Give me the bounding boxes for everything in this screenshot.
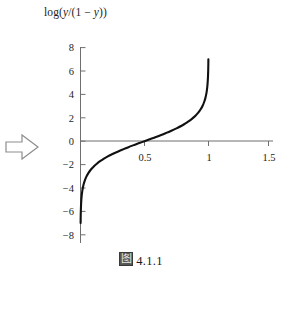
y-tick-label: −2 xyxy=(63,159,74,170)
y-tick-label: 8 xyxy=(69,42,74,53)
x-tick-label: 1 xyxy=(206,152,211,163)
y-tick-label: 6 xyxy=(69,66,74,77)
x-tick-labels: 0.5 1 1.5 xyxy=(138,152,275,163)
figure-glyph-icon: 图 xyxy=(119,252,133,266)
y-tick-labels: 8 6 4 2 0 −2 −4 −6 −8 xyxy=(63,42,75,240)
figure-number: 4.1.1 xyxy=(136,254,163,268)
y-tick-label: 4 xyxy=(69,89,75,100)
figure-container: log(y/(1 − y)) 8 xyxy=(0,0,282,311)
y-tick-label: −6 xyxy=(63,206,74,217)
x-tick-label: 0.5 xyxy=(138,152,151,163)
figure-caption: 图4.1.1 xyxy=(0,252,282,269)
x-tick-label: 1.5 xyxy=(262,152,275,163)
y-tick-label: 2 xyxy=(69,113,74,124)
y-tick-label: −8 xyxy=(63,230,74,241)
y-tick-label: −4 xyxy=(63,183,75,194)
x-tick-marks xyxy=(145,141,269,146)
y-tick-label: 0 xyxy=(69,136,74,147)
